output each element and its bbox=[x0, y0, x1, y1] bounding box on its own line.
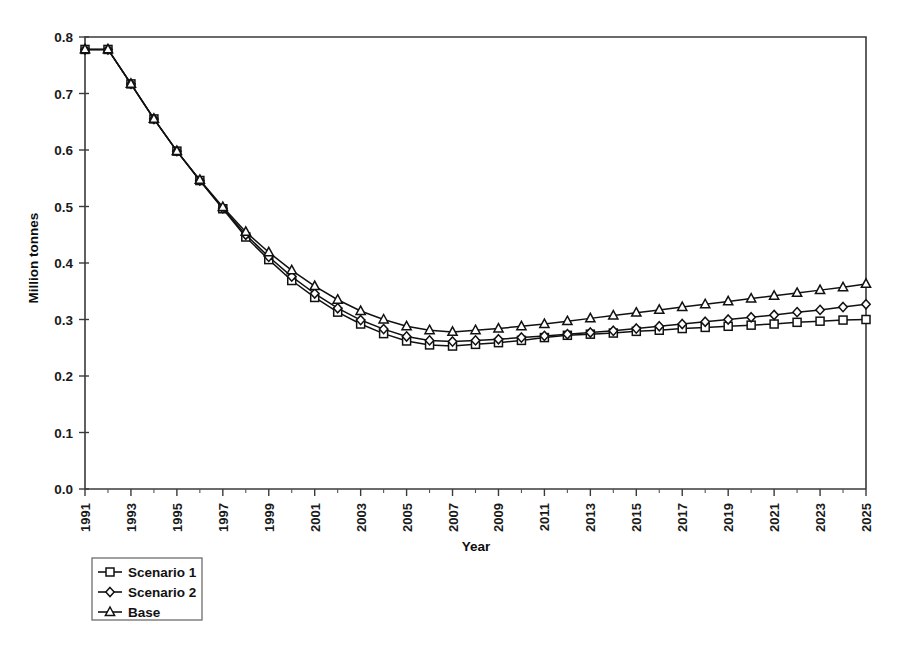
x-tick-label: 1993 bbox=[124, 503, 139, 532]
axis-titles: Million tonnesYear bbox=[26, 213, 491, 554]
marker-diamond bbox=[816, 305, 824, 314]
x-tick-label: 2021 bbox=[767, 503, 782, 532]
marker-diamond bbox=[770, 310, 778, 319]
x-tick-label: 2023 bbox=[813, 503, 828, 532]
y-tick-label: 0.3 bbox=[54, 313, 73, 328]
chart-container: 0.00.10.20.30.40.50.60.70.8 199119931995… bbox=[0, 0, 905, 652]
marker-triangle bbox=[333, 295, 342, 303]
x-tick-label: 2007 bbox=[446, 503, 461, 532]
y-axis-title: Million tonnes bbox=[26, 213, 41, 304]
y-tick-label: 0.0 bbox=[54, 482, 73, 497]
legend-label: Scenario 2 bbox=[128, 585, 196, 600]
marker-triangle bbox=[287, 265, 296, 273]
x-axis-title: Year bbox=[462, 539, 491, 554]
y-tick-label: 0.8 bbox=[54, 30, 73, 45]
x-tick-label: 2025 bbox=[859, 503, 874, 532]
x-tick-label: 1991 bbox=[78, 503, 93, 532]
plot-border bbox=[85, 37, 866, 489]
y-tick-label: 0.5 bbox=[54, 200, 73, 215]
marker-triangle bbox=[310, 281, 319, 289]
x-axis-ticks: 1991199319951997199920012003200520072009… bbox=[78, 489, 874, 532]
x-tick-label: 2009 bbox=[491, 503, 506, 532]
marker-triangle bbox=[861, 279, 870, 287]
x-tick-label: 1999 bbox=[262, 503, 277, 532]
series-base bbox=[80, 44, 870, 335]
plot-frame bbox=[85, 37, 866, 489]
x-tick-label: 2013 bbox=[583, 503, 598, 532]
marker-diamond bbox=[862, 300, 870, 309]
marker-diamond bbox=[793, 308, 801, 317]
marker-square bbox=[862, 316, 870, 324]
x-tick-label: 2005 bbox=[400, 503, 415, 532]
marker-square bbox=[839, 316, 847, 324]
x-tick-label: 1995 bbox=[170, 503, 185, 532]
x-tick-label: 2015 bbox=[629, 503, 644, 532]
y-tick-label: 0.7 bbox=[54, 87, 73, 102]
y-tick-label: 0.1 bbox=[54, 426, 73, 441]
marker-square bbox=[770, 320, 778, 328]
line-chart: 0.00.10.20.30.40.50.60.70.8 199119931995… bbox=[0, 0, 905, 652]
marker-square bbox=[793, 318, 801, 326]
x-tick-label: 1997 bbox=[216, 503, 231, 532]
marker-square bbox=[816, 317, 824, 325]
marker-diamond bbox=[839, 302, 847, 311]
legend-label: Base bbox=[128, 605, 161, 620]
y-axis-ticks: 0.00.10.20.30.40.50.60.70.8 bbox=[54, 30, 89, 497]
legend-label: Scenario 1 bbox=[128, 565, 197, 580]
y-tick-label: 0.4 bbox=[54, 256, 73, 271]
x-tick-label: 2017 bbox=[675, 503, 690, 532]
x-tick-label: 2001 bbox=[308, 503, 323, 532]
x-tick-label: 2003 bbox=[354, 503, 369, 532]
chart-legend: Scenario 1Scenario 2Base bbox=[92, 558, 202, 620]
marker-square bbox=[106, 568, 114, 576]
series-scenario-1 bbox=[81, 45, 870, 350]
x-tick-label: 2019 bbox=[721, 503, 736, 532]
y-tick-label: 0.6 bbox=[54, 143, 73, 158]
x-tick-label: 2011 bbox=[537, 503, 552, 531]
y-tick-label: 0.2 bbox=[54, 369, 73, 384]
series-path bbox=[85, 49, 866, 332]
data-series-group bbox=[80, 44, 870, 350]
